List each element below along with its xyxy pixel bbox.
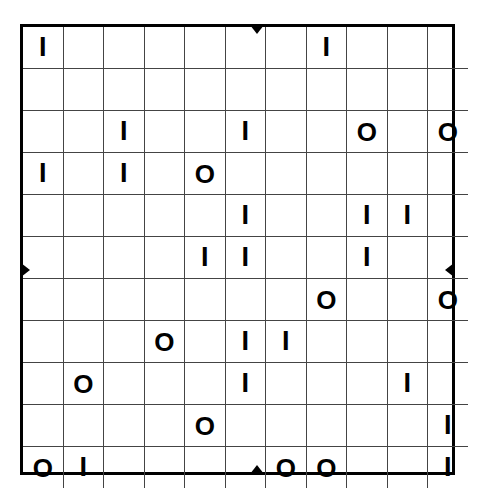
grid-cell-r8-c5[interactable] bbox=[185, 321, 226, 363]
grid-cell-r1-c11[interactable] bbox=[428, 27, 468, 69]
grid-cell-r11-c8[interactable]: O bbox=[306, 447, 347, 489]
grid-cell-r7-c10[interactable] bbox=[387, 279, 428, 321]
grid-cell-r2-c6[interactable] bbox=[225, 69, 266, 111]
grid-cell-r5-c4[interactable] bbox=[144, 195, 185, 237]
grid-cell-r6-c3[interactable] bbox=[104, 237, 145, 279]
grid-cell-r8-c1[interactable] bbox=[23, 321, 63, 363]
grid-cell-r1-c7[interactable] bbox=[266, 27, 307, 69]
grid-cell-r7-c3[interactable] bbox=[104, 279, 145, 321]
grid-cell-r10-c8[interactable] bbox=[306, 405, 347, 447]
grid-cell-r3-c8[interactable] bbox=[306, 111, 347, 153]
grid-cell-r2-c10[interactable] bbox=[387, 69, 428, 111]
grid-cell-r8-c10[interactable] bbox=[387, 321, 428, 363]
grid-cell-r5-c3[interactable] bbox=[104, 195, 145, 237]
grid-cell-r6-c10[interactable] bbox=[387, 237, 428, 279]
grid-cell-r9-c4[interactable] bbox=[144, 363, 185, 405]
grid-cell-r6-c9[interactable]: I bbox=[347, 237, 388, 279]
grid-cell-r3-c3[interactable]: I bbox=[104, 111, 145, 153]
grid-cell-r9-c2[interactable]: O bbox=[63, 363, 104, 405]
grid-cell-r6-c5[interactable]: I bbox=[185, 237, 226, 279]
grid-cell-r2-c8[interactable] bbox=[306, 69, 347, 111]
grid-cell-r2-c9[interactable] bbox=[347, 69, 388, 111]
grid-cell-r4-c1[interactable]: I bbox=[23, 153, 63, 195]
grid-cell-r4-c9[interactable] bbox=[347, 153, 388, 195]
grid-cell-r1-c2[interactable] bbox=[63, 27, 104, 69]
grid-cell-r8-c8[interactable] bbox=[306, 321, 347, 363]
grid-cell-r10-c3[interactable] bbox=[104, 405, 145, 447]
grid-cell-r3-c1[interactable] bbox=[23, 111, 63, 153]
grid-cell-r8-c3[interactable] bbox=[104, 321, 145, 363]
grid-cell-r4-c4[interactable] bbox=[144, 153, 185, 195]
grid-cell-r7-c4[interactable] bbox=[144, 279, 185, 321]
grid-cell-r3-c9[interactable]: O bbox=[347, 111, 388, 153]
grid-cell-r8-c6[interactable]: I bbox=[225, 321, 266, 363]
grid-cell-r11-c4[interactable] bbox=[144, 447, 185, 489]
grid-cell-r8-c7[interactable]: I bbox=[266, 321, 307, 363]
grid-cell-r5-c10[interactable]: I bbox=[387, 195, 428, 237]
grid-cell-r10-c10[interactable] bbox=[387, 405, 428, 447]
grid-cell-r9-c7[interactable] bbox=[266, 363, 307, 405]
grid-cell-r5-c2[interactable] bbox=[63, 195, 104, 237]
grid-cell-r1-c8[interactable]: I bbox=[306, 27, 347, 69]
grid-cell-r7-c9[interactable] bbox=[347, 279, 388, 321]
grid-cell-r4-c5[interactable]: O bbox=[185, 153, 226, 195]
grid-cell-r5-c9[interactable]: I bbox=[347, 195, 388, 237]
grid-cell-r6-c2[interactable] bbox=[63, 237, 104, 279]
grid-cell-r10-c11[interactable]: I bbox=[428, 405, 468, 447]
grid-cell-r6-c7[interactable] bbox=[266, 237, 307, 279]
grid-cell-r10-c9[interactable] bbox=[347, 405, 388, 447]
grid-cell-r4-c6[interactable] bbox=[225, 153, 266, 195]
grid-cell-r1-c9[interactable] bbox=[347, 27, 388, 69]
grid-cell-r7-c2[interactable] bbox=[63, 279, 104, 321]
grid-cell-r1-c4[interactable] bbox=[144, 27, 185, 69]
grid-cell-r11-c2[interactable]: I bbox=[63, 447, 104, 489]
grid-cell-r3-c7[interactable] bbox=[266, 111, 307, 153]
grid-cell-r4-c2[interactable] bbox=[63, 153, 104, 195]
grid-cell-r7-c7[interactable] bbox=[266, 279, 307, 321]
grid-cell-r1-c10[interactable] bbox=[387, 27, 428, 69]
grid-cell-r7-c6[interactable] bbox=[225, 279, 266, 321]
grid-cell-r9-c9[interactable] bbox=[347, 363, 388, 405]
puzzle-grid-table[interactable]: IIIIOOIIOIIIIIIOOOIIOIIOIOIOOI bbox=[23, 27, 468, 488]
grid-cell-r3-c5[interactable] bbox=[185, 111, 226, 153]
grid-cell-r10-c7[interactable] bbox=[266, 405, 307, 447]
grid-cell-r2-c1[interactable] bbox=[23, 69, 63, 111]
grid-cell-r2-c2[interactable] bbox=[63, 69, 104, 111]
grid-cell-r3-c6[interactable]: I bbox=[225, 111, 266, 153]
grid-cell-r9-c5[interactable] bbox=[185, 363, 226, 405]
grid-cell-r10-c1[interactable] bbox=[23, 405, 63, 447]
grid-cell-r4-c3[interactable]: I bbox=[104, 153, 145, 195]
grid-cell-r9-c6[interactable]: I bbox=[225, 363, 266, 405]
grid-cell-r11-c3[interactable] bbox=[104, 447, 145, 489]
grid-cell-r10-c5[interactable]: O bbox=[185, 405, 226, 447]
grid-cell-r9-c1[interactable] bbox=[23, 363, 63, 405]
grid-cell-r8-c2[interactable] bbox=[63, 321, 104, 363]
grid-cell-r7-c1[interactable] bbox=[23, 279, 63, 321]
grid-cell-r6-c6[interactable]: I bbox=[225, 237, 266, 279]
grid-cell-r9-c11[interactable] bbox=[428, 363, 468, 405]
grid-cell-r2-c5[interactable] bbox=[185, 69, 226, 111]
grid-cell-r7-c5[interactable] bbox=[185, 279, 226, 321]
grid-cell-r11-c5[interactable] bbox=[185, 447, 226, 489]
grid-cell-r10-c4[interactable] bbox=[144, 405, 185, 447]
grid-cell-r3-c2[interactable] bbox=[63, 111, 104, 153]
grid-cell-r11-c1[interactable]: O bbox=[23, 447, 63, 489]
grid-cell-r6-c8[interactable] bbox=[306, 237, 347, 279]
grid-cell-r11-c11[interactable]: I bbox=[428, 447, 468, 489]
grid-cell-r5-c5[interactable] bbox=[185, 195, 226, 237]
grid-cell-r7-c8[interactable]: O bbox=[306, 279, 347, 321]
grid-cell-r3-c10[interactable] bbox=[387, 111, 428, 153]
grid-cell-r8-c9[interactable] bbox=[347, 321, 388, 363]
grid-cell-r10-c6[interactable] bbox=[225, 405, 266, 447]
grid-cell-r4-c8[interactable] bbox=[306, 153, 347, 195]
grid-cell-r5-c1[interactable] bbox=[23, 195, 63, 237]
grid-cell-r9-c10[interactable]: I bbox=[387, 363, 428, 405]
grid-cell-r5-c7[interactable] bbox=[266, 195, 307, 237]
grid-cell-r8-c4[interactable]: O bbox=[144, 321, 185, 363]
grid-cell-r4-c10[interactable] bbox=[387, 153, 428, 195]
grid-cell-r1-c5[interactable] bbox=[185, 27, 226, 69]
grid-cell-r11-c10[interactable] bbox=[387, 447, 428, 489]
grid-cell-r2-c11[interactable] bbox=[428, 69, 468, 111]
grid-cell-r1-c1[interactable]: I bbox=[23, 27, 63, 69]
grid-cell-r2-c4[interactable] bbox=[144, 69, 185, 111]
